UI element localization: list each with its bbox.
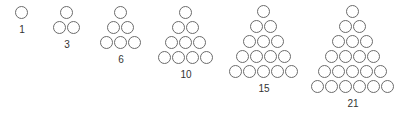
- circle-icon: [172, 51, 185, 64]
- circle-icon: [250, 50, 263, 63]
- circle-icon: [165, 36, 178, 49]
- circle-icon: [15, 6, 28, 19]
- circle-icon: [53, 21, 66, 34]
- circle-icon: [346, 5, 359, 18]
- circle-icon: [346, 65, 359, 78]
- circle-icon: [186, 21, 199, 34]
- circle-icon: [229, 65, 242, 78]
- circle-icon: [179, 36, 192, 49]
- circle-icon: [325, 80, 338, 93]
- circle-icon: [114, 36, 127, 49]
- circle-icon: [200, 51, 213, 64]
- circle-icon: [114, 6, 127, 19]
- circle-icon: [121, 21, 134, 34]
- circle-icon: [257, 5, 270, 18]
- triangle-count-label: 1: [19, 25, 25, 35]
- circle-icon: [318, 65, 331, 78]
- circle-icon: [107, 21, 120, 34]
- triangle-count-label: 6: [118, 55, 124, 65]
- circle-icon: [367, 50, 380, 63]
- circle-icon: [346, 35, 359, 48]
- circle-icon: [243, 65, 256, 78]
- circle-icon: [339, 20, 352, 33]
- triangle-count-label: 3: [64, 40, 70, 50]
- circle-icon: [271, 35, 284, 48]
- circle-icon: [67, 21, 80, 34]
- circle-icon: [186, 51, 199, 64]
- circle-icon: [257, 35, 270, 48]
- triangle-count-label: 10: [180, 70, 191, 80]
- circle-icon: [193, 36, 206, 49]
- circle-icon: [278, 50, 291, 63]
- circle-icon: [243, 35, 256, 48]
- circle-icon: [339, 50, 352, 63]
- circle-icon: [339, 80, 352, 93]
- circle-icon: [264, 20, 277, 33]
- circle-icon: [264, 50, 277, 63]
- circle-icon: [332, 65, 345, 78]
- circle-icon: [374, 65, 387, 78]
- circle-icon: [311, 80, 324, 93]
- circle-icon: [236, 50, 249, 63]
- circle-icon: [158, 51, 171, 64]
- circle-icon: [353, 50, 366, 63]
- circle-icon: [100, 36, 113, 49]
- circle-icon: [325, 50, 338, 63]
- circle-icon: [172, 21, 185, 34]
- triangle-count-label: 15: [258, 84, 269, 94]
- circle-icon: [353, 20, 366, 33]
- circle-icon: [360, 35, 373, 48]
- circle-icon: [250, 20, 263, 33]
- circle-icon: [360, 65, 373, 78]
- circle-icon: [285, 65, 298, 78]
- circle-icon: [381, 80, 394, 93]
- circle-icon: [60, 6, 73, 19]
- circle-icon: [271, 65, 284, 78]
- triangular-numbers-diagram: 136101521: [0, 0, 415, 113]
- circle-icon: [128, 36, 141, 49]
- circle-icon: [367, 80, 380, 93]
- circle-icon: [332, 35, 345, 48]
- circle-icon: [179, 6, 192, 19]
- circle-icon: [257, 65, 270, 78]
- triangle-count-label: 21: [347, 99, 358, 109]
- circle-icon: [353, 80, 366, 93]
